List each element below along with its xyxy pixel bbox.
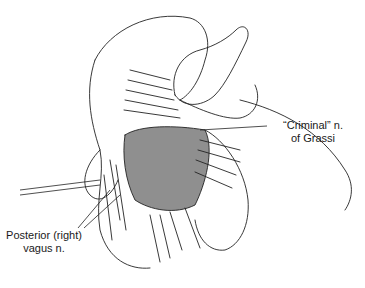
label-line: Posterior (right) bbox=[2, 229, 86, 242]
label-line: of Grassi bbox=[268, 132, 358, 145]
label-criminal-nerve-of-grassi: “Criminal” n. of Grassi bbox=[268, 119, 358, 145]
label-line: vagus n. bbox=[2, 242, 86, 255]
label-posterior-vagus-nerve: Posterior (right) vagus n. bbox=[2, 229, 86, 255]
label-line: “Criminal” n. bbox=[268, 119, 358, 132]
